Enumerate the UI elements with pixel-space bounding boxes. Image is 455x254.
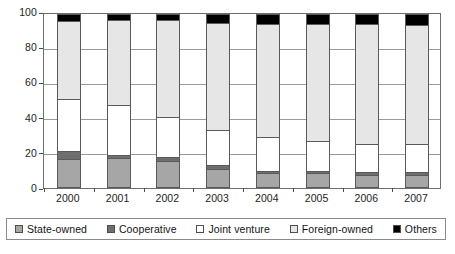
y-tick-mark — [39, 118, 43, 119]
bar-segment-joint-venture[interactable] — [306, 141, 330, 171]
stacked-bar[interactable] — [156, 14, 180, 188]
legend-item-cooperative[interactable]: Cooperative — [107, 223, 177, 235]
x-tick-mark — [144, 188, 145, 192]
bar-segment-state-owned[interactable] — [355, 175, 379, 188]
bar-segment-joint-venture[interactable] — [156, 117, 180, 157]
bar-group[interactable] — [107, 14, 131, 188]
x-tick-label-2003: 2003 — [197, 192, 237, 204]
legend-label: Others — [405, 223, 437, 235]
legend-swatch-icon — [290, 225, 298, 233]
gridline — [44, 119, 440, 120]
x-tick-label-2005: 2005 — [297, 192, 337, 204]
bar-segment-state-owned[interactable] — [256, 173, 280, 188]
legend-label: State-owned — [27, 223, 87, 235]
bar-segment-cooperative[interactable] — [57, 151, 81, 160]
bar-segment-joint-venture[interactable] — [57, 99, 81, 150]
x-tick-label-2000: 2000 — [48, 192, 88, 204]
bar-group[interactable] — [256, 14, 280, 188]
x-tick-mark — [94, 188, 95, 192]
bar-segment-foreign-owned[interactable] — [156, 20, 180, 117]
legend-label: Cooperative — [119, 223, 177, 235]
x-tick-mark — [392, 188, 393, 192]
y-tick-mark — [39, 153, 43, 154]
legend-swatch-icon — [196, 225, 204, 233]
x-tick-label-2007: 2007 — [396, 192, 436, 204]
x-tick-label-2002: 2002 — [147, 192, 187, 204]
y-tick-label: 80 — [0, 41, 37, 53]
bar-segment-joint-venture[interactable] — [355, 144, 379, 173]
bar-segment-joint-venture[interactable] — [405, 144, 429, 173]
stacked-bar[interactable] — [256, 14, 280, 188]
bar-segment-joint-venture[interactable] — [107, 105, 131, 155]
bar-segment-foreign-owned[interactable] — [355, 24, 379, 143]
y-tick-mark — [39, 13, 43, 14]
stacked-bar[interactable] — [206, 14, 230, 188]
plot-area — [43, 13, 441, 189]
chart-legend: State-ownedCooperativeJoint ventureForei… — [6, 218, 446, 240]
stacked-bar[interactable] — [107, 14, 131, 188]
y-tick-mark — [39, 83, 43, 84]
y-tick-label: 60 — [0, 76, 37, 88]
bar-segment-state-owned[interactable] — [107, 158, 131, 188]
bar-group[interactable] — [306, 14, 330, 188]
legend-item-others[interactable]: Others — [393, 223, 437, 235]
bar-group[interactable] — [206, 14, 230, 188]
bar-group[interactable] — [405, 14, 429, 188]
x-tick-label-2006: 2006 — [346, 192, 386, 204]
bar-segment-others[interactable] — [405, 14, 429, 25]
y-tick-mark — [39, 189, 43, 190]
bar-segment-foreign-owned[interactable] — [206, 23, 230, 130]
y-tick-mark — [39, 48, 43, 49]
bar-segment-joint-venture[interactable] — [256, 137, 280, 171]
bar-segment-foreign-owned[interactable] — [306, 24, 330, 141]
plot-wrapper: 0204060801002000200120022003200420052006… — [0, 0, 455, 200]
stacked-bar[interactable] — [57, 14, 81, 188]
x-tick-mark — [44, 188, 45, 192]
bar-segment-foreign-owned[interactable] — [57, 21, 81, 99]
bar-segment-state-owned[interactable] — [156, 161, 180, 188]
y-tick-label: 0 — [0, 182, 37, 194]
bar-segment-state-owned[interactable] — [206, 169, 230, 188]
bar-segment-others[interactable] — [57, 14, 81, 21]
stacked-bar[interactable] — [355, 14, 379, 188]
gridline — [44, 84, 440, 85]
bar-segment-state-owned[interactable] — [306, 173, 330, 188]
x-tick-mark — [243, 188, 244, 192]
legend-item-state-owned[interactable]: State-owned — [15, 223, 87, 235]
gridline — [44, 49, 440, 50]
bar-segment-others[interactable] — [256, 14, 280, 24]
x-tick-mark — [343, 188, 344, 192]
x-tick-mark — [193, 188, 194, 192]
legend-label: Joint venture — [208, 223, 269, 235]
legend-swatch-icon — [107, 225, 115, 233]
bar-segment-foreign-owned[interactable] — [256, 24, 280, 137]
stacked-bar[interactable] — [405, 14, 429, 188]
bar-segment-others[interactable] — [206, 14, 230, 23]
bar-group[interactable] — [156, 14, 180, 188]
bar-group[interactable] — [57, 14, 81, 188]
stacked-bar[interactable] — [306, 14, 330, 188]
bar-segment-others[interactable] — [306, 14, 330, 24]
bar-segment-foreign-owned[interactable] — [405, 25, 429, 143]
y-tick-label: 20 — [0, 147, 37, 159]
stacked-bar-chart: 0204060801002000200120022003200420052006… — [0, 0, 455, 254]
legend-label: Foreign-owned — [302, 223, 373, 235]
x-tick-label-2004: 2004 — [247, 192, 287, 204]
bar-segment-others[interactable] — [355, 14, 379, 24]
y-tick-label: 100 — [0, 6, 37, 18]
bar-group[interactable] — [355, 14, 379, 188]
bar-segment-state-owned[interactable] — [57, 159, 81, 188]
bar-segment-state-owned[interactable] — [405, 175, 429, 188]
bar-segment-foreign-owned[interactable] — [107, 20, 131, 105]
legend-item-joint-venture[interactable]: Joint venture — [196, 223, 269, 235]
gridline — [44, 154, 440, 155]
x-tick-mark — [293, 188, 294, 192]
y-tick-label: 40 — [0, 112, 37, 124]
legend-swatch-icon — [393, 225, 401, 233]
x-tick-label-2001: 2001 — [98, 192, 138, 204]
bar-segment-joint-venture[interactable] — [206, 130, 230, 166]
legend-item-foreign-owned[interactable]: Foreign-owned — [290, 223, 373, 235]
legend-swatch-icon — [15, 225, 23, 233]
